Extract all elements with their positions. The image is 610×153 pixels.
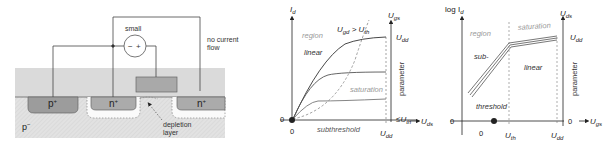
zero-right-label: 0 bbox=[568, 117, 572, 126]
zero-y-label: 0 bbox=[280, 115, 284, 124]
y-axis-label: Id bbox=[290, 5, 296, 15]
zero-x-label: 0 bbox=[290, 127, 294, 136]
zero-x-label: 0 bbox=[479, 129, 483, 138]
mosfet-cross-section: − + small no current flow p+ n+ n+ p− de… bbox=[15, 17, 239, 138]
source-plus: + bbox=[136, 42, 141, 51]
origin-marker bbox=[289, 117, 295, 123]
curve-mid bbox=[293, 72, 386, 119]
udd-x-label: Udd bbox=[380, 129, 393, 139]
diagram-canvas: − + small no current flow p+ n+ n+ p− de… bbox=[0, 0, 610, 153]
threshold-label: threshold bbox=[476, 102, 508, 111]
label-small: small bbox=[125, 25, 142, 32]
parameter-label: parameter bbox=[570, 61, 579, 96]
region-label: region bbox=[470, 29, 491, 38]
linear-label: linear bbox=[524, 63, 543, 72]
label-no-current-1: no current bbox=[207, 36, 239, 43]
zero-y-label: 0 bbox=[450, 117, 454, 126]
region-label: region bbox=[302, 31, 323, 40]
udd-right-label: Udd bbox=[570, 33, 583, 43]
subthreshold-label: subthreshold bbox=[317, 125, 361, 134]
source-minus: − bbox=[128, 42, 133, 51]
oxide-layer bbox=[15, 68, 225, 97]
output-characteristic-chart: Id Ugs Ugd > Uth region linear saturatio… bbox=[280, 5, 433, 139]
origin-marker bbox=[491, 118, 497, 124]
udd-x-label: Udd bbox=[551, 131, 564, 141]
boundary-label: Ugd > Uth bbox=[337, 25, 370, 35]
curve-3 bbox=[472, 40, 557, 97]
x-axis-label: Uds bbox=[421, 117, 433, 127]
right-axis-label: Ugs bbox=[388, 11, 400, 21]
gate-electrode bbox=[136, 77, 177, 92]
right-axis-label: Uds bbox=[560, 9, 572, 19]
le-uth-label: ≤Uth bbox=[396, 115, 412, 125]
label-depletion-2: layer bbox=[163, 129, 179, 137]
saturation-label: saturation bbox=[350, 85, 383, 94]
uth-x-label: Uth bbox=[505, 131, 516, 141]
curve-low bbox=[293, 99, 386, 119]
linear-label: linear bbox=[304, 48, 323, 57]
y-axis-label: log Id bbox=[445, 5, 464, 15]
sub-label: sub- bbox=[474, 52, 489, 61]
udd-right-label: Udd bbox=[396, 33, 409, 43]
label-depletion-1: depletion bbox=[163, 121, 192, 129]
saturation-label: saturation bbox=[518, 21, 551, 32]
transfer-characteristic-chart: log Id Uds region sub- threshold saturat… bbox=[445, 5, 602, 141]
curves bbox=[468, 36, 557, 97]
label-no-current-2: flow bbox=[207, 44, 220, 51]
parameter-label: parameter bbox=[397, 61, 406, 96]
x-axis-label: Ugs bbox=[590, 117, 602, 127]
